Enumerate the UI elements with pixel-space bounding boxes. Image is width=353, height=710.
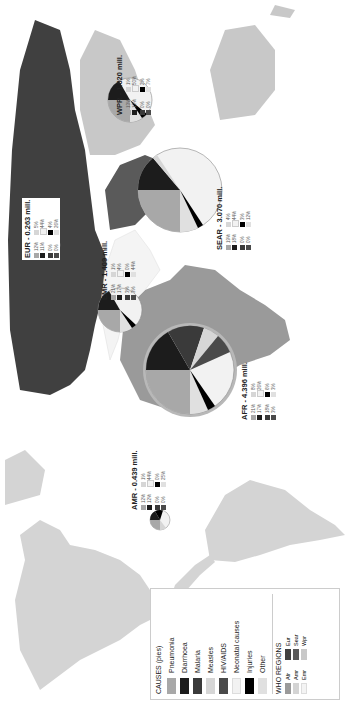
legend-item-pneumonia: Pneumonia [165, 594, 178, 694]
legend-item-hiv-aids: HIV/AIDS [217, 594, 230, 694]
legend-causes-title: CAUSES (pies) [155, 594, 162, 694]
region-stats: 12% 1% 12% 44% 0% 0% 0% 25% [141, 450, 166, 510]
swatch-wpr [301, 649, 307, 660]
pie-afr [143, 323, 237, 417]
region-stats: 19% 4% 18% 44% 0% 3% 0% 12% [226, 187, 251, 250]
label-emr: EMR - 1.409 mill. 21% 1% 17% 4% 3% 0% 3%… [100, 241, 136, 300]
region-stats: 21% 8% 17% 26% 18% 6% 3% 3% [251, 362, 276, 420]
region-title: EUR - 0.263 mill. [23, 200, 32, 258]
label-sear: SEAR - 3.070 mill. 19% 4% 18% 44% 0% 3% … [215, 187, 251, 250]
swatch-icon [180, 678, 189, 694]
swatch-emr [301, 683, 307, 694]
label-eur: EUR - 0.263 mill. 12% 5% 11% 44% 0% 4% 0… [22, 198, 60, 260]
pie-amr [150, 510, 170, 530]
swatch-amr [293, 683, 299, 694]
legend-item-neonatal: Neonatal causes [230, 594, 243, 694]
legend-item-diarrhoea: Diarrhoea [178, 594, 191, 694]
swatch-diarrhoea [147, 505, 152, 510]
region-wpr-australia [210, 25, 275, 120]
swatch-sear [293, 649, 299, 660]
pie-sear [138, 148, 222, 232]
swatch-other [161, 482, 166, 487]
region-title: EMR - 1.409 mill. [100, 241, 109, 300]
swatch-icon [206, 678, 215, 694]
legend-regions-title: WHO REGIONS [275, 594, 282, 694]
label-amr: AMR - 0.439 mill. 12% 1% 12% 44% 0% 0% 0… [130, 450, 166, 510]
region-stats: 12% 5% 11% 44% 0% 4% 0% 26% [34, 200, 59, 258]
swatch-icon [219, 678, 228, 694]
swatch-malaria [155, 505, 160, 510]
region-amr-greenland [5, 450, 45, 505]
label-afr: AFR - 4.396 mill. 21% 8% 17% 26% 18% 6% … [240, 362, 276, 420]
swatch-pneumonia [141, 505, 146, 510]
legend-item-malaria: Malaria [191, 594, 204, 694]
region-title: AFR - 4.396 mill. [240, 362, 249, 420]
region-amr-south-america [205, 480, 345, 562]
label-wpr: WPR - 1.020 mill. 13% 1% 12% 50% 0% 2% 0… [115, 55, 151, 115]
swatch-measles [141, 482, 146, 487]
swatch-afr [285, 683, 291, 694]
swatch-icon [167, 678, 176, 694]
legend-item-measles: Measles [204, 594, 217, 694]
legend-item-other: Other [256, 594, 269, 694]
region-amr-north-america [15, 520, 170, 690]
rotated-map-stage: AMR - 0.439 mill. 12% 1% 12% 44% 0% 0% 0… [0, 0, 353, 710]
swatch-icon [193, 678, 202, 694]
legend-item-injuries: Injuries [243, 594, 256, 694]
swatch-icon [232, 678, 241, 694]
region-stats: 21% 1% 17% 4% 3% 0% 3% 44% [111, 241, 136, 300]
swatch-icon [258, 678, 267, 694]
map-legend: CAUSES (pies) Pneumonia Diarrhoea Malari… [150, 588, 340, 700]
region-stats: 13% 1% 12% 50% 0% 2% 0% 7% [126, 55, 151, 115]
region-title: AMR - 0.439 mill. [130, 450, 139, 510]
legend-who-regions: WHO REGIONS Afr Eur Amr Sear Emr Wpr [272, 594, 307, 694]
swatch-hiv [161, 505, 166, 510]
region-title: SEAR - 3.070 mill. [215, 187, 224, 250]
swatch-injuries [155, 482, 160, 487]
region-title: WPR - 1.020 mill. [115, 55, 124, 115]
swatch-neonatal [147, 480, 154, 487]
swatch-icon [245, 678, 254, 694]
swatch-eur [285, 649, 291, 660]
region-wpr-new-zealand [270, 5, 295, 18]
